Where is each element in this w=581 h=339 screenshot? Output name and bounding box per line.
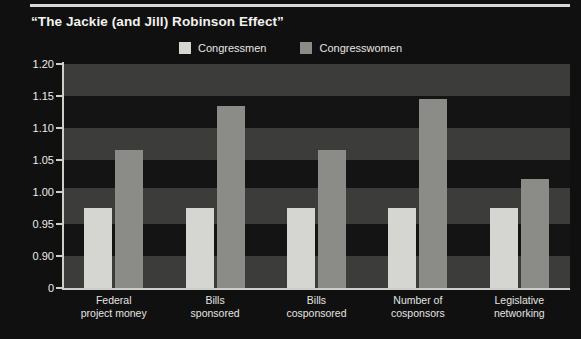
plot-area bbox=[63, 64, 570, 288]
legend-label-congresswomen: Congresswomen bbox=[319, 42, 402, 54]
bar-congresswomen bbox=[115, 150, 143, 288]
y-axis-tick-label: 1.10 bbox=[4, 122, 54, 134]
category-label-line-2: sponsored bbox=[164, 307, 265, 320]
x-axis-category-label: Federalproject money bbox=[63, 294, 164, 320]
legend-entry-congresswomen: Congresswomen bbox=[300, 42, 402, 54]
bar-congresswomen bbox=[521, 179, 549, 288]
legend-swatch-congresswomen-icon bbox=[300, 42, 312, 54]
category-label-line-1: Number of bbox=[367, 294, 468, 307]
plot-background-band bbox=[63, 96, 570, 128]
bar-congressmen bbox=[186, 208, 214, 288]
chart-legend: Congressmen Congresswomen bbox=[0, 42, 581, 54]
y-axis-tick-label: 1.20 bbox=[4, 58, 54, 70]
x-axis-category-labels: Federalproject moneyBillssponsoredBillsc… bbox=[63, 294, 570, 334]
category-label-line-2: cosponsored bbox=[266, 307, 367, 320]
legend-label-congressmen: Congressmen bbox=[198, 42, 266, 54]
y-axis-tick-label: 0.95 bbox=[4, 218, 54, 230]
bar-congressmen bbox=[287, 208, 315, 288]
chart-title: “The Jackie (and Jill) Robinson Effect” bbox=[31, 14, 284, 29]
bar-congressmen bbox=[388, 208, 416, 288]
legend-swatch-congressmen-icon bbox=[179, 42, 191, 54]
category-label-line-1: Bills bbox=[266, 294, 367, 307]
category-label-line-1: Legislative bbox=[469, 294, 570, 307]
y-axis-tick-label: 1.15 bbox=[4, 90, 54, 102]
bar-congressmen bbox=[490, 208, 518, 288]
top-rule-divider bbox=[30, 4, 570, 7]
category-label-line-2: cosponsors bbox=[367, 307, 468, 320]
plot-background-band bbox=[63, 64, 570, 96]
y-axis-tick-mark bbox=[56, 159, 63, 161]
bar-congresswomen bbox=[217, 106, 245, 288]
x-axis-category-label: Number ofcosponsors bbox=[367, 294, 468, 320]
legend-entry-congressmen: Congressmen bbox=[179, 42, 266, 54]
y-axis-tick-mark bbox=[56, 95, 63, 97]
bar-congressmen bbox=[84, 208, 112, 288]
category-label-line-2: project money bbox=[63, 307, 164, 320]
chart-figure: “The Jackie (and Jill) Robinson Effect” … bbox=[0, 0, 581, 339]
y-axis-tick-mark bbox=[56, 127, 63, 129]
y-axis-tick-mark bbox=[56, 287, 63, 289]
category-label-line-1: Bills bbox=[164, 294, 265, 307]
y-axis-tick-mark bbox=[56, 223, 63, 225]
y-axis-tick-labels: 1.201.151.101.051.000.950.900 bbox=[0, 0, 54, 339]
y-axis-tick-mark bbox=[56, 255, 63, 257]
bar-congresswomen bbox=[318, 150, 346, 288]
bar-congresswomen bbox=[419, 99, 447, 288]
category-label-line-2: networking bbox=[469, 307, 570, 320]
x-axis-category-label: Legislativenetworking bbox=[469, 294, 570, 320]
y-axis-tick-mark bbox=[56, 191, 63, 193]
x-axis-category-label: Billscosponsored bbox=[266, 294, 367, 320]
x-axis-category-label: Billssponsored bbox=[164, 294, 265, 320]
x-axis-line bbox=[62, 288, 570, 290]
y-axis-tick-mark bbox=[56, 63, 63, 65]
y-axis-tick-label: 0.90 bbox=[4, 250, 54, 262]
y-axis-tick-label: 0 bbox=[4, 282, 54, 294]
y-axis-tick-label: 1.05 bbox=[4, 154, 54, 166]
y-axis-tick-label: 1.00 bbox=[4, 186, 54, 198]
category-label-line-1: Federal bbox=[63, 294, 164, 307]
